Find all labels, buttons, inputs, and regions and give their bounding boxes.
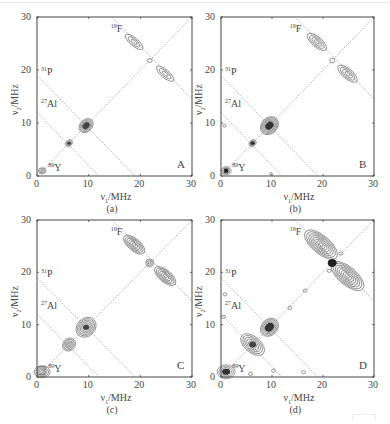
y-tick-label: 10 [205,320,215,330]
y-tick-label: 0 [26,171,31,181]
watermark-logo [352,414,376,421]
hyscore-panel-c: 01020300102030ν1/MHzν2/MHz(c)C19F31P27Al… [0,203,195,415]
x-tick-label: 0 [218,380,223,390]
hyscore-panel-d: 01020300102030ν1/MHzν2/MHz(d)D19F31P27Al… [184,203,390,415]
nucleus-label-p: 31P [41,268,53,279]
x-tick-label: 30 [368,179,378,189]
y-tick-label: 30 [205,12,215,22]
y-tick-label: 30 [205,215,215,225]
x-tick-label: 10 [83,380,93,390]
nucleus-label-p: 31P [225,268,237,279]
diagonal-guide [221,220,374,377]
y-tick-label: 20 [205,267,215,277]
nucleus-label-f: 19F [290,23,302,34]
x-tick-label: 20 [134,380,144,390]
nucleus-label-f: 19F [290,226,302,237]
nucleus-label-al: 27Al [41,300,57,311]
x-tick-label: 10 [83,179,93,189]
nucleus-label-al: 27Al [225,98,241,109]
nucleus-label-p: 31P [225,66,237,77]
y-tick-label: 0 [210,171,215,181]
diagonal-guide [37,17,192,176]
y-tick-label: 30 [21,12,31,22]
panel-letter: B [359,158,366,170]
x-tick-label: 20 [317,380,327,390]
y-tick-label: 20 [21,65,31,75]
y-tick-label: 30 [21,215,31,225]
diagonal-guide [221,17,374,176]
nucleus-label-al: 27Al [41,98,57,109]
y-axis-label: ν2/MHz [9,84,22,115]
plot-area [0,203,195,415]
plot-area [184,203,390,415]
diagonal-guide [37,220,192,377]
y-tick-label: 10 [205,118,215,128]
x-tick-label: 0 [218,179,223,189]
nucleus-label-y: 89Y [232,363,245,374]
x-tick-label: 20 [317,179,327,189]
nucleus-label-p: 31P [41,66,53,77]
hyscore-panel-a: 01020300102030ν1/MHzν2/MHz(a)A19F31P27Al… [0,0,195,212]
nucleus-label-y: 89Y [48,162,61,173]
x-tick-label: 10 [266,380,276,390]
y-axis-label: ν2/MHz [193,286,206,317]
nucleus-label-y: 89Y [48,363,61,374]
y-tick-label: 0 [210,372,215,382]
y-tick-label: 10 [21,320,31,330]
nucleus-label-f: 19F [111,226,123,237]
hyscore-panel-b: 01020300102030ν1/MHzν2/MHz(b)B19F31P27Al… [184,0,390,212]
nucleus-label-y: 89Y [232,162,245,173]
panel-caption: (c) [107,404,118,415]
x-tick-label: 10 [266,179,276,189]
panel-caption: (d) [290,404,302,415]
x-tick-label: 0 [34,179,39,189]
panel-letter: D [359,359,367,371]
y-tick-label: 10 [21,118,31,128]
x-tick-label: 30 [368,380,378,390]
y-tick-label: 0 [26,372,31,382]
x-tick-label: 20 [134,179,144,189]
y-axis-label: ν2/MHz [9,286,22,317]
nucleus-label-f: 19F [111,23,123,34]
y-tick-label: 20 [205,65,215,75]
x-tick-label: 0 [34,380,39,390]
y-axis-label: ν2/MHz [193,84,206,115]
nucleus-label-al: 27Al [225,300,241,311]
y-tick-label: 20 [21,267,31,277]
